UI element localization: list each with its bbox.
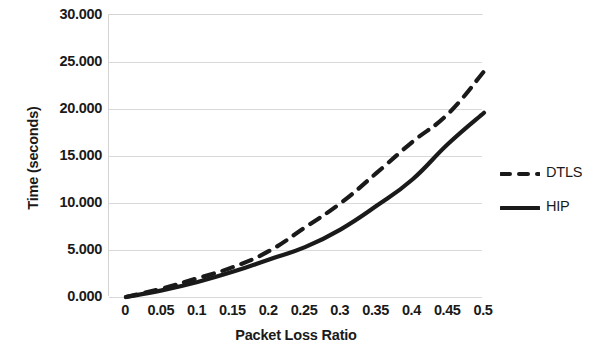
x-tick-label: 0.2	[259, 301, 278, 320]
x-tick-label: 0.05	[147, 301, 174, 320]
legend-swatch-dtls	[500, 166, 540, 178]
x-tick-label: 0.45	[434, 301, 461, 320]
legend-label: DTLS	[546, 164, 582, 180]
x-tick-label: 0.35	[362, 301, 389, 320]
legend-item-dtls[interactable]: DTLS	[500, 155, 593, 189]
legend-swatch-hip	[500, 200, 540, 212]
gridline	[109, 297, 482, 298]
x-axis-tick-labels: 00.050.10.150.20.250.30.350.40.450.5	[0, 301, 593, 323]
series-line-dtls	[126, 71, 484, 297]
x-axis-title: Packet Loss Ratio	[108, 327, 484, 343]
plot-area	[108, 14, 483, 296]
x-tick-label: 0.25	[291, 301, 318, 320]
x-tick-label: 0.5	[474, 301, 493, 320]
x-tick-label: 0.3	[330, 301, 349, 320]
y-tick-label: 25.000	[30, 54, 102, 69]
x-tick-label: 0.15	[219, 301, 246, 320]
y-tick-label: 30.000	[30, 7, 102, 22]
y-tick-label: 10.000	[30, 195, 102, 210]
chart-legend: DTLSHIP	[500, 155, 593, 223]
x-tick-label: 0	[121, 301, 129, 320]
data-series-svg	[109, 15, 484, 297]
x-tick-label: 0.1	[187, 301, 206, 320]
x-tick-label: 0.4	[402, 301, 421, 320]
chart-figure: Time (seconds) 30.00025.00020.00015.0001…	[0, 0, 593, 357]
legend-label: HIP	[546, 198, 570, 214]
y-tick-label: 20.000	[30, 101, 102, 116]
y-tick-label: 5.000	[30, 242, 102, 257]
series-line-hip	[126, 113, 484, 297]
y-tick-label: 15.000	[30, 148, 102, 163]
legend-item-hip[interactable]: HIP	[500, 189, 593, 223]
